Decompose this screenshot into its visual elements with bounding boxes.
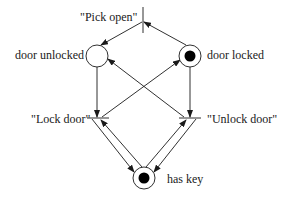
arc-locked-to-pick [144, 22, 186, 45]
token-has-key [139, 173, 150, 184]
place-door-unlocked [86, 45, 108, 67]
arc-pick-to-unlocked [101, 22, 142, 45]
label-pick-open: "Pick open" [80, 10, 137, 24]
label-door-locked: door locked [207, 48, 264, 62]
label-lock-door: "Lock door" [31, 112, 90, 126]
arc-lock-to-haskey [92, 119, 134, 172]
label-door-unlocked: door unlocked [15, 48, 84, 62]
arc-lock-to-locked [102, 60, 180, 117]
arc-haskey-to-unlock [146, 120, 186, 167]
arc-unlock-to-unlocked [108, 59, 184, 117]
label-has-key: has key [167, 172, 203, 186]
label-unlock-door: "Unlock door" [207, 112, 277, 126]
token-door-locked [185, 51, 196, 62]
arc-haskey-to-lock [101, 120, 142, 167]
petri-net-diagram [0, 0, 286, 197]
arc-unlock-to-haskey [154, 119, 196, 172]
